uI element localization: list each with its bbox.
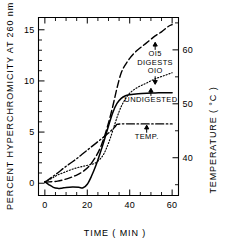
x-tick-label: 40 xyxy=(124,200,135,210)
y2-tick-label: 60 xyxy=(183,45,194,55)
x-tick-label: 20 xyxy=(82,200,93,210)
top-axis-ticks xyxy=(45,18,172,24)
temp-arrowhead-icon xyxy=(145,125,149,129)
y-axis-ticks xyxy=(39,30,45,183)
y-tick-label: 15 xyxy=(24,25,35,35)
curve-annotations: OI5DIGESTSOIOUNDIGESTEDTEMP. xyxy=(124,42,177,141)
y-axis-title: PERCENT HYPERCHROMICITY AT 260 nm xyxy=(5,2,15,210)
annotation-line: UNDIGESTED xyxy=(124,95,177,104)
annotation-line: TEMP. xyxy=(135,132,159,141)
y2-axis-tick-labels: 405060 xyxy=(183,45,194,163)
annotation-line: OIO xyxy=(148,66,163,75)
x-axis-ticks xyxy=(45,190,172,196)
o15-digests-o10-down-arrowhead-icon xyxy=(153,81,157,85)
x-axis-tick-labels: 0204060 xyxy=(42,200,177,210)
annotation-o15-digests-o10: OI5DIGESTSOIO xyxy=(137,42,173,84)
x-tick-label: 0 xyxy=(42,200,47,210)
undigested-arrowhead-icon xyxy=(149,88,153,92)
annotation-temp: TEMP. xyxy=(135,125,159,141)
x-tick-label: 60 xyxy=(167,200,178,210)
x-axis-title: TIME ( MIN ) xyxy=(84,228,146,238)
plot-frame xyxy=(39,18,179,196)
y-axis-tick-labels: 051015 xyxy=(24,25,35,188)
y2-axis-title: TEMPERATURE ( °C ) xyxy=(208,86,218,193)
y-tick-label: 5 xyxy=(29,127,34,137)
y-tick-label: 10 xyxy=(24,76,35,86)
y-tick-label: 0 xyxy=(29,178,34,188)
hyperchromicity-chart: 0204060 051015 405060 OI5DIGESTSOIOUNDIG… xyxy=(0,0,230,249)
y2-tick-label: 40 xyxy=(183,153,194,163)
y2-tick-label: 50 xyxy=(183,99,194,109)
o15-digests-o10-arrowhead-icon xyxy=(153,42,157,46)
figure-container: 0204060 051015 405060 OI5DIGESTSOIOUNDIG… xyxy=(0,0,230,249)
